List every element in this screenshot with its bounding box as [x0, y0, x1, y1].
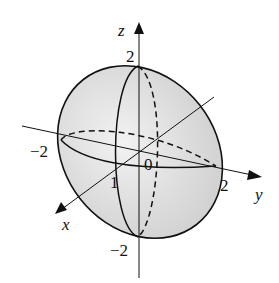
z-arrow-icon — [134, 22, 144, 34]
y-tick-pos: 2 — [220, 176, 229, 195]
y-arrow-icon — [247, 170, 262, 180]
x-axis-label: x — [61, 215, 70, 234]
origin-label: 0 — [144, 155, 153, 174]
y-axis-label: y — [253, 185, 263, 204]
y-tick-neg: −2 — [30, 142, 48, 161]
z-tick-neg: −2 — [110, 241, 128, 260]
x-arrow-icon — [55, 202, 67, 214]
ellipsoid-diagram: z 2 −2 y 2 −2 x 1 0 — [0, 0, 279, 283]
z-axis-label: z — [117, 21, 125, 40]
z-tick-pos: 2 — [126, 47, 135, 66]
x-tick: 1 — [110, 173, 119, 192]
